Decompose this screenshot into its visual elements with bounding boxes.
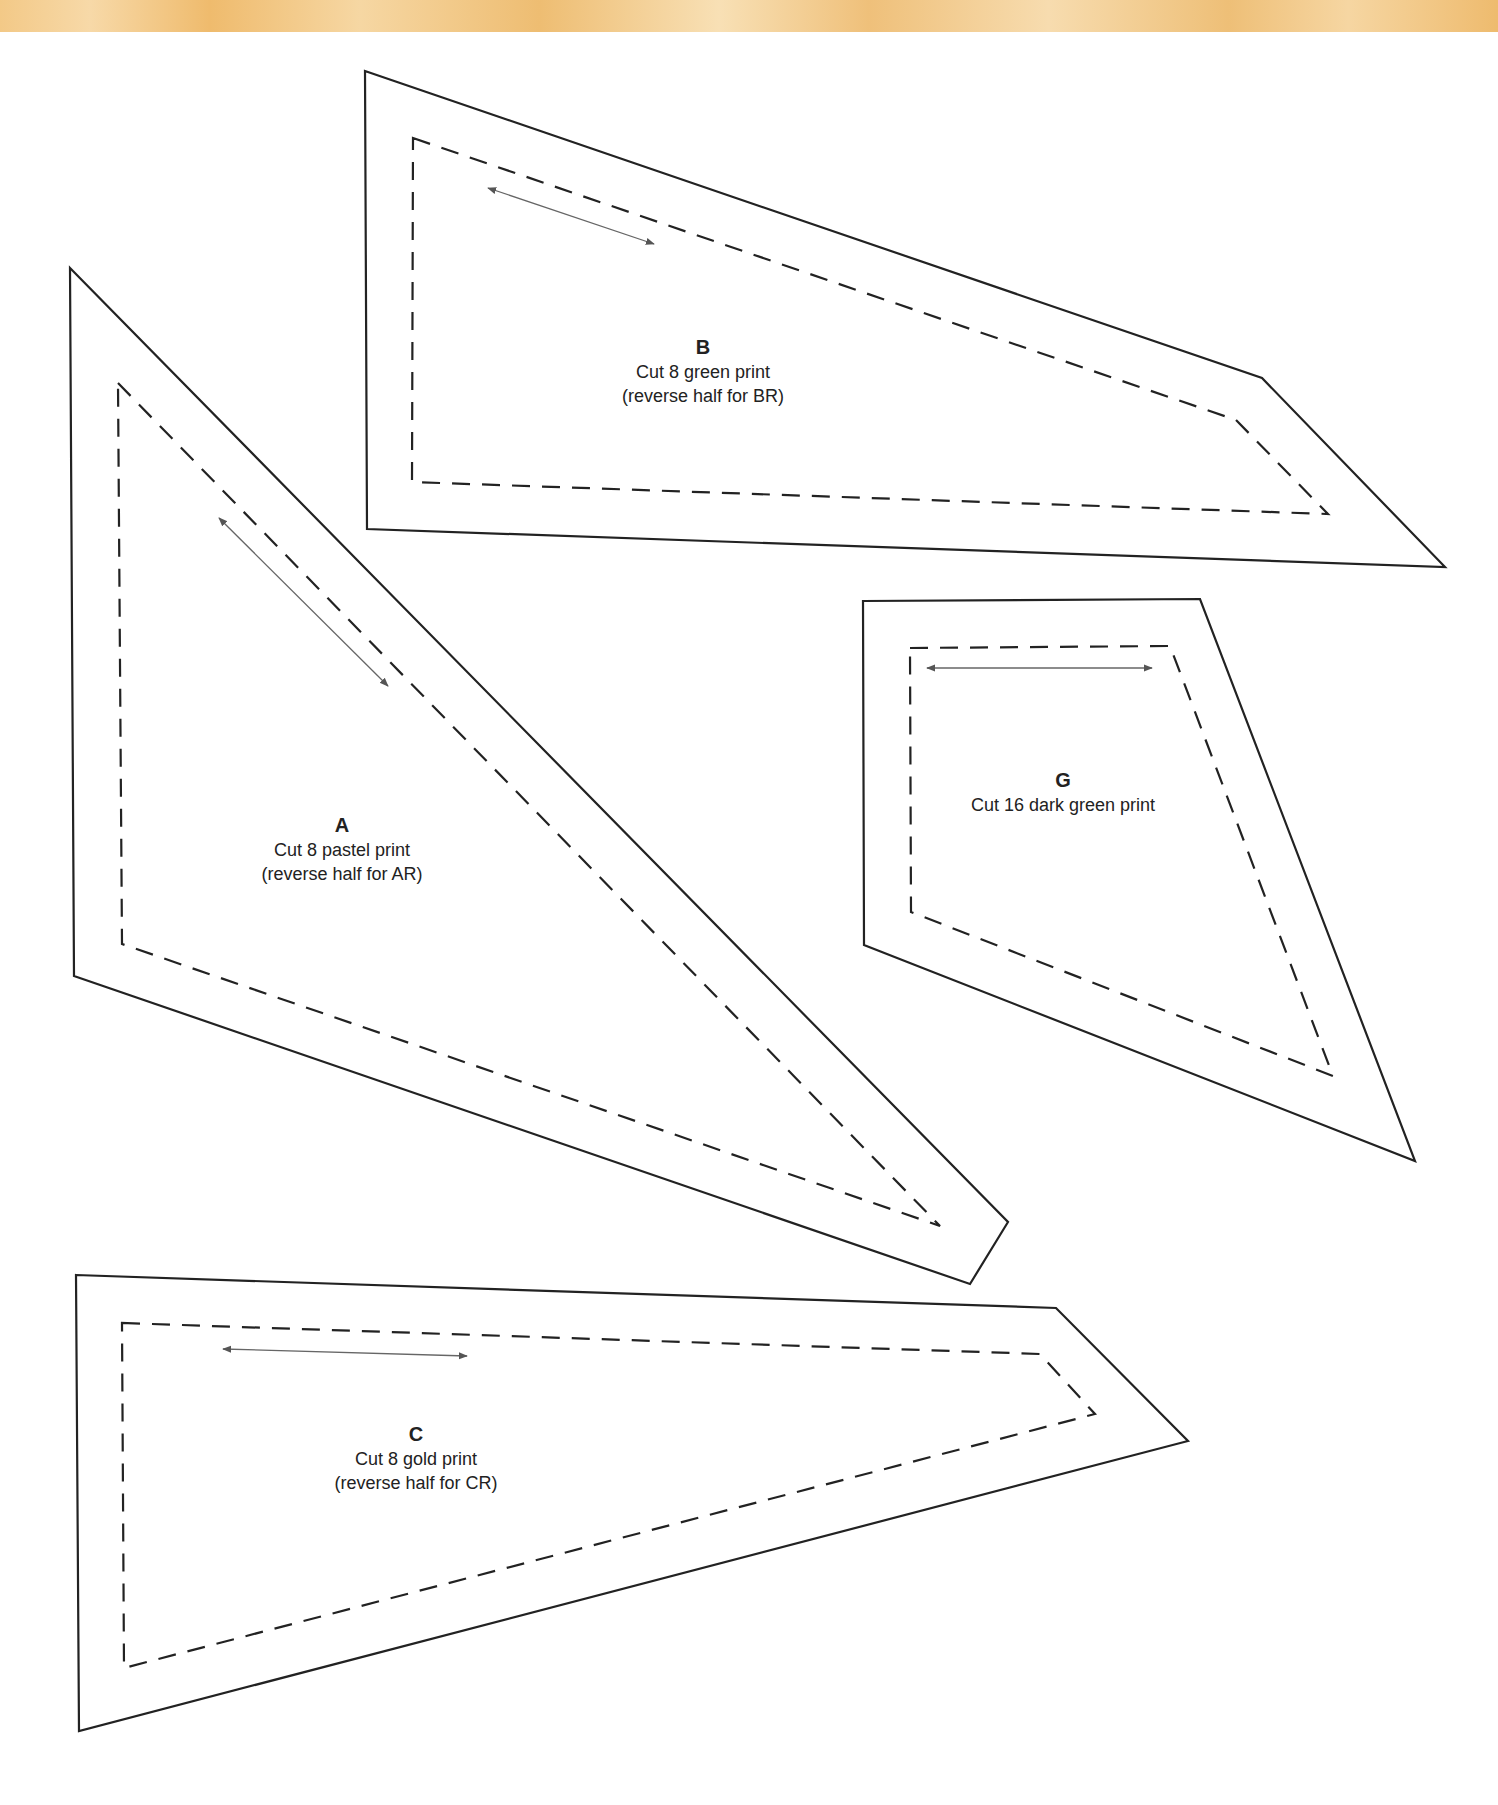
piece-a-template [70, 268, 1008, 1284]
piece-letter: A [261, 812, 422, 838]
cut-instruction: Cut 16 dark green print [971, 793, 1155, 817]
reverse-note: (reverse half for BR) [622, 384, 784, 408]
reverse-note: (reverse half for CR) [334, 1471, 497, 1495]
piece-b-label: B Cut 8 green print (reverse half for BR… [622, 334, 784, 408]
cut-instruction: Cut 8 gold print [334, 1447, 497, 1471]
piece-g-template [863, 599, 1415, 1161]
piece-letter: C [334, 1421, 497, 1447]
grainline-arrow-icon [219, 518, 388, 686]
reverse-note: (reverse half for AR) [261, 862, 422, 886]
piece-letter: G [971, 767, 1155, 793]
pattern-pieces [0, 0, 1498, 1805]
piece-letter: B [622, 334, 784, 360]
piece-c-label: C Cut 8 gold print (reverse half for CR) [334, 1421, 497, 1495]
piece-a-label: A Cut 8 pastel print (reverse half for A… [261, 812, 422, 886]
piece-b-template [365, 71, 1445, 567]
cut-instruction: Cut 8 pastel print [261, 838, 422, 862]
cut-instruction: Cut 8 green print [622, 360, 784, 384]
piece-c-template [76, 1275, 1188, 1731]
grainline-arrow-icon [223, 1349, 467, 1356]
piece-g-label: G Cut 16 dark green print [971, 767, 1155, 817]
grainline-arrow-icon [488, 188, 654, 244]
